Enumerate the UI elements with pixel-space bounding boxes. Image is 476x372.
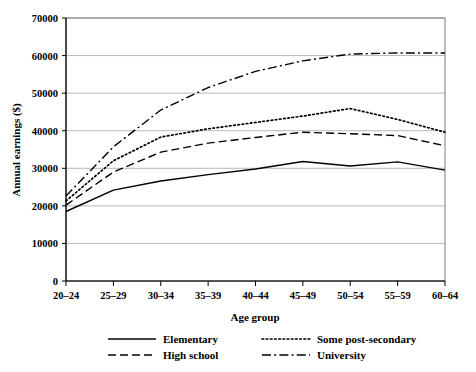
chart-figure: 010000200003000040000500006000070000 20–…	[0, 0, 476, 372]
x-tick-label: 30–34	[148, 290, 175, 301]
y-tick-label: 10000	[32, 238, 58, 249]
line-chart-svg: 010000200003000040000500006000070000 20–…	[0, 0, 476, 372]
y-tick-label: 40000	[32, 126, 58, 137]
y-axis-label: Annual earnings ($)	[10, 103, 23, 197]
y-axis-ticks: 010000200003000040000500006000070000	[32, 13, 66, 287]
legend-label-some-post-secondary: Some post-secondary	[317, 333, 417, 345]
x-tick-label: 60–64	[432, 290, 459, 301]
x-axis-ticks: 20–2425–2930–3435–3940–4445–4950–5455–59…	[53, 281, 459, 301]
y-tick-label: 0	[53, 276, 58, 287]
x-axis-label: Age group	[231, 311, 280, 323]
x-tick-label: 45–49	[290, 290, 316, 301]
chart-legend: ElementarySome post-secondaryHigh school…	[108, 333, 417, 361]
x-tick-label: 20–24	[53, 290, 80, 301]
x-tick-label: 55–59	[385, 290, 411, 301]
x-tick-label: 40–44	[242, 290, 269, 301]
legend-label-elementary: Elementary	[163, 333, 218, 345]
plot-background	[66, 18, 445, 281]
y-tick-label: 20000	[32, 201, 58, 212]
x-tick-label: 35–39	[195, 290, 221, 301]
legend-label-university: University	[317, 349, 366, 361]
legend-label-high-school: High school	[163, 349, 218, 361]
y-tick-label: 60000	[32, 51, 58, 62]
y-tick-label: 30000	[32, 163, 58, 174]
y-tick-label: 70000	[32, 13, 58, 24]
x-tick-label: 50–54	[337, 290, 364, 301]
x-tick-label: 25–29	[100, 290, 126, 301]
y-tick-label: 50000	[32, 88, 58, 99]
